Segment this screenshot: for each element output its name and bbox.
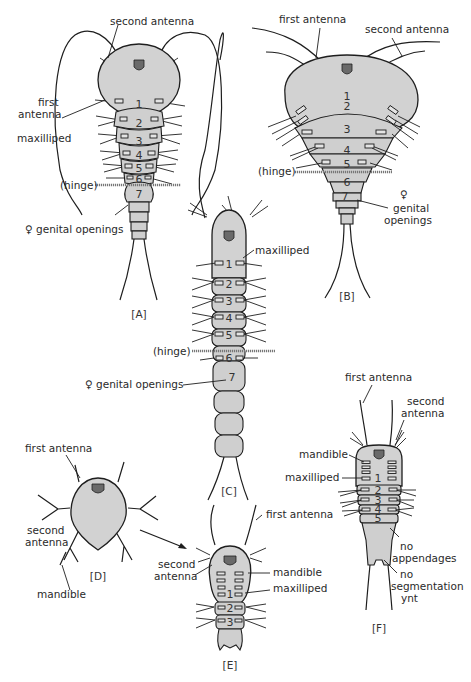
label-first-antenna: first antenna xyxy=(279,13,346,25)
panel-b-female-lateral: 1 2 3 4 5 6 7 first antenna second anten… xyxy=(252,13,449,302)
label-second-antenna: antenna xyxy=(401,407,444,419)
segment-number: 6 xyxy=(344,176,351,189)
label-no-segmentation: ynt xyxy=(401,592,418,604)
label-genital-openings: ♀ genital openings xyxy=(25,223,123,235)
label-no-appendages: appendages xyxy=(392,552,457,564)
label-hinge: (hinge) xyxy=(60,179,98,191)
segment-number: 3 xyxy=(227,616,234,629)
second-antenna-right xyxy=(128,496,158,520)
naupliar-eye-icon xyxy=(224,556,236,565)
segment-number: 1 xyxy=(136,98,143,111)
panel-label-c: [C] xyxy=(221,485,237,497)
segment-number: 7 xyxy=(229,371,236,384)
segment-number: 5 xyxy=(226,329,233,342)
first-antenna-left xyxy=(199,33,223,218)
segment-number: 3 xyxy=(226,295,233,308)
arrow-d-to-e xyxy=(140,530,185,548)
first-antenna-left xyxy=(211,505,215,545)
panel-label-d: [D] xyxy=(90,570,106,582)
caudal-ramus-right xyxy=(236,457,248,500)
segment-number: 7 xyxy=(136,188,143,201)
label-no-segmentation: no xyxy=(400,568,413,580)
segment-number: 3 xyxy=(136,135,143,148)
segment-number: 6 xyxy=(226,352,233,365)
label-second-antenna: antenna xyxy=(25,536,68,548)
label-genital-openings: openings xyxy=(384,214,432,226)
label-second-antenna: antenna xyxy=(154,570,197,582)
label-mandible: mandible xyxy=(37,588,86,600)
label-second-antenna: second xyxy=(158,558,195,570)
first-antenna-right xyxy=(245,505,256,545)
label-maxilliped: maxilliped xyxy=(255,244,309,256)
label-second-antenna: second xyxy=(27,524,64,536)
copepod-development-diagram: 1 2 3 4 5 6 7 second antenna first anten… xyxy=(0,0,471,682)
naupliar-eye-icon xyxy=(92,484,104,493)
label-no-appendages: no xyxy=(400,540,413,552)
segment-number: 4 xyxy=(226,312,233,325)
caudal-ramus-right xyxy=(144,239,157,300)
label-first-antenna: first xyxy=(38,96,59,108)
label-second-antenna: second antenna xyxy=(365,23,449,35)
panel-a-adult-female: 1 2 3 4 5 6 7 second antenna first anten… xyxy=(17,15,222,320)
caudal-ramus-left xyxy=(120,239,134,300)
panel-f-copepodid-early: 1 2 3 4 5 first antenna second antenna m… xyxy=(285,371,464,634)
first-antenna-right xyxy=(390,400,392,445)
label-first-antenna: first antenna xyxy=(345,371,412,383)
label-no-segmentation: segmentation xyxy=(391,580,464,592)
caudal-ramus-right xyxy=(350,224,370,298)
first-antenna-left xyxy=(252,28,322,62)
panel-label-e: [E] xyxy=(223,659,238,671)
label-maxilliped: maxilliped xyxy=(285,471,339,483)
panel-e-metanauplius: 1 2 3 first antenna mandible maxilliped … xyxy=(154,505,333,671)
segment-number: 2 xyxy=(344,100,351,113)
label-first-antenna: first antenna xyxy=(25,442,92,454)
caudal-ramus-left xyxy=(366,565,370,610)
segment-number: 5 xyxy=(375,512,382,525)
naupliar-eye-icon xyxy=(342,64,352,74)
segment-number: 2 xyxy=(227,602,234,615)
label-hinge: (hinge) xyxy=(153,345,191,357)
label-maxilliped: maxilliped xyxy=(273,582,327,594)
label-genital-openings: ♀ genital openings xyxy=(85,378,183,390)
first-antenna-left xyxy=(360,400,367,445)
label-mandible: mandible xyxy=(273,566,322,578)
label-female-symbol: ♀ xyxy=(400,188,408,200)
second-antenna-left xyxy=(38,495,70,520)
panel-label-a: [A] xyxy=(131,308,146,320)
segment-number: 5 xyxy=(344,158,351,171)
label-first-antenna: first antenna xyxy=(266,508,333,520)
label-second-antenna: second antenna xyxy=(110,15,194,27)
panel-label-f: [F] xyxy=(372,622,386,634)
label-genital-openings: genital xyxy=(393,202,429,214)
naupliar-eye-icon xyxy=(134,60,144,70)
caudal-ramus-left xyxy=(325,224,344,298)
segment-number: 2 xyxy=(226,278,233,291)
segment-number: 3 xyxy=(344,123,351,136)
arrow-head-icon xyxy=(178,543,187,549)
segment-number: 7 xyxy=(342,190,349,203)
segment-number: 4 xyxy=(136,149,143,162)
segment-number: 1 xyxy=(226,258,233,271)
segment-number: 1 xyxy=(227,588,234,601)
segment-number: 2 xyxy=(136,117,143,130)
label-first-antenna: antenna xyxy=(18,108,61,120)
label-hinge: (hinge) xyxy=(258,165,296,177)
label-mandible: mandible xyxy=(299,448,348,460)
label-maxilliped: maxilliped xyxy=(17,132,71,144)
label-second-antenna: second xyxy=(407,395,444,407)
naupliar-eye-icon xyxy=(224,231,234,241)
panel-label-b: [B] xyxy=(339,290,354,302)
naupliar-eye-icon xyxy=(374,450,384,459)
segment-number: 4 xyxy=(344,144,351,157)
